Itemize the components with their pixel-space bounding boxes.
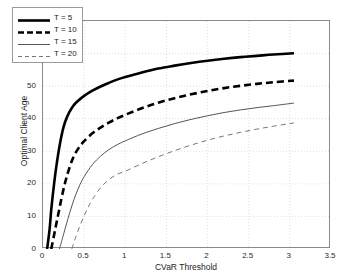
x-tick-label: 0	[27, 251, 57, 260]
x-tick-label: 2.5	[233, 251, 263, 260]
plot-area	[42, 20, 330, 248]
x-tick-label: 3.5	[315, 251, 345, 260]
legend-line-sample	[17, 48, 51, 59]
legend-item-1: T = 5	[17, 11, 77, 23]
figure: 010203040506070 00.511.522.533.5 CVaR Th…	[0, 0, 350, 280]
y-axis-label: Optimal Client Age	[19, 61, 29, 201]
series-line-4	[72, 123, 294, 249]
legend-line-sample	[17, 12, 51, 23]
legend: T = 5T = 10T = 15T = 20	[12, 7, 83, 63]
x-axis-label: CVaR Threshold	[42, 262, 330, 272]
plot-svg	[43, 21, 331, 249]
legend-label: T = 15	[54, 37, 77, 46]
x-tick-label: 1	[109, 251, 139, 260]
x-tick-label: 1.5	[150, 251, 180, 260]
legend-label: T = 5	[54, 13, 72, 22]
x-tick-label: 3	[274, 251, 304, 260]
series-line-2	[51, 81, 294, 249]
legend-line-sample	[17, 36, 51, 47]
legend-label: T = 20	[54, 49, 77, 58]
legend-line-sample	[17, 24, 51, 35]
legend-label: T = 10	[54, 25, 77, 34]
x-tick-label: 2	[192, 251, 222, 260]
legend-item-4: T = 20	[17, 47, 77, 59]
y-tick-label: 10	[6, 211, 36, 220]
legend-item-3: T = 15	[17, 35, 77, 47]
x-tick-label: 0.5	[68, 251, 98, 260]
legend-item-2: T = 10	[17, 23, 77, 35]
gridlines	[43, 21, 331, 249]
series-line-3	[59, 103, 294, 249]
